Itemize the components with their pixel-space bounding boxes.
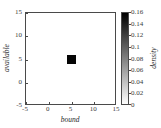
x-tick-mark	[72, 102, 73, 104]
plot-area	[25, 12, 116, 105]
x-tick-label: -5	[22, 106, 28, 113]
y-tick-mark	[26, 36, 28, 37]
colorbar-tick-label: 0	[131, 102, 135, 109]
x-axis-title: bound	[61, 116, 80, 124]
colorbar-tick-label: 0.04	[131, 78, 143, 85]
x-tick-label: 5	[69, 106, 73, 113]
x-tick-label: 10	[90, 106, 97, 113]
x-tick-mark	[94, 102, 95, 104]
y-tick-mark	[26, 13, 28, 14]
x-tick-label: 0	[46, 106, 50, 113]
colorbar-tick-label: 0.14	[131, 20, 143, 27]
y-tick-label: 15	[2, 9, 22, 16]
y-tick-label: 10	[2, 32, 22, 39]
x-tick-label: 15	[113, 106, 120, 113]
colorbar-tick-label: 0.12	[131, 32, 143, 39]
y-tick-mark	[26, 60, 28, 61]
colorbar-tick-label: 0.06	[131, 67, 143, 74]
colorbar-tick-label: 0.08	[131, 55, 143, 62]
y-tick-mark	[26, 83, 28, 84]
colorbar-gradient	[122, 13, 128, 104]
colorbar-title: density	[150, 47, 158, 68]
colorbar-tick-label: 0.16	[131, 9, 143, 16]
y-tick-label: 0	[2, 78, 22, 85]
colorbar-tick-label: 0.02	[131, 90, 143, 97]
colorbar-tick-label: 0.1	[131, 43, 140, 50]
heatmap-cell	[67, 55, 76, 64]
chart-figure: -5051015 -5051015 bound available 0.160.…	[0, 0, 161, 128]
y-axis-title: available	[3, 44, 11, 72]
x-tick-mark	[49, 102, 50, 104]
x-tick-mark	[26, 102, 27, 104]
y-tick-label: -5	[2, 102, 22, 109]
colorbar	[121, 12, 129, 105]
